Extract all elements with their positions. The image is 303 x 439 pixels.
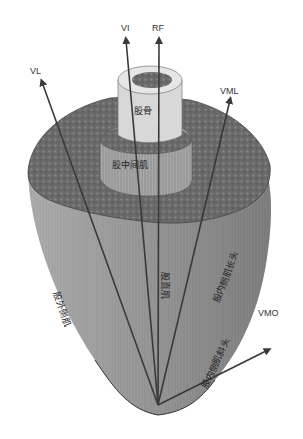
label-vl: VL [30, 66, 41, 76]
label-vmo: VMO [258, 308, 279, 318]
label-rf: RF [152, 23, 164, 33]
label-vi: VI [121, 23, 130, 33]
quadriceps-diagram [0, 0, 303, 439]
label-rectus-femoris: 股直肌 [159, 272, 172, 299]
label-vastus-intermedius: 股中间肌 [112, 158, 148, 171]
arrow-rf [158, 40, 159, 405]
label-femur: 股骨 [134, 104, 152, 117]
label-vml: VML [220, 86, 239, 96]
